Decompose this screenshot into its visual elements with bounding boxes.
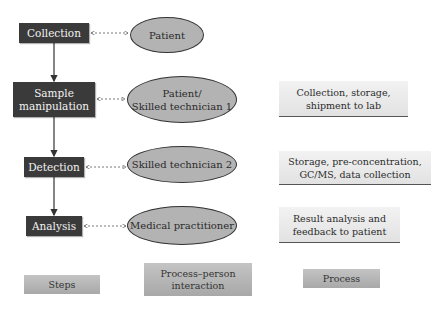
person-patient: Patient [130,17,204,53]
person-skilled-technician-2: Skilled technician 2 [127,146,237,183]
legend-process: Process [303,269,380,288]
person-patient-skilled-technician-1: Patient/ Skilled technician 1 [127,76,237,123]
legend-process-person-interaction: Process–person interaction [144,263,252,296]
person-medical-practitioner: Medical practitioner [127,206,237,245]
process-result-analysis: Result analysis and feedback to patient [279,207,400,243]
process-collection-storage: Collection, storage, shipment to lab [279,81,408,117]
process-storage-gcms: Storage, pre-concentration, GC/MS, data … [279,151,431,185]
step-analysis: Analysis [26,216,82,236]
step-sample-manipulation: Sample manipulation [13,82,95,117]
step-detection: Detection [24,157,84,177]
legend-steps: Steps [24,275,100,294]
step-collection: Collection [19,23,89,43]
